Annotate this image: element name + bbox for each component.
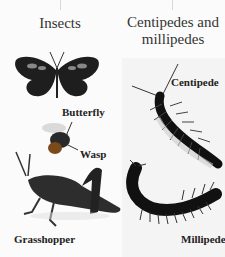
butterfly-icon: [12, 48, 102, 103]
label-millipede: Millipede: [181, 233, 225, 245]
label-centipede: Centipede: [171, 76, 219, 88]
heading-myriapods-line1: Centipedes and: [122, 14, 224, 31]
connector-insects: [60, 0, 61, 10]
label-butterfly: Butterfly: [62, 106, 105, 118]
heading-insects: Insects: [20, 15, 100, 32]
connector-myriapods: [172, 0, 173, 10]
heading-myriapods-line2: millipedes: [122, 31, 224, 48]
label-grasshopper: Grasshopper: [14, 233, 75, 245]
millipede-icon: [122, 160, 225, 230]
heading-myriapods: Centipedes and millipedes: [122, 14, 224, 48]
grasshopper-icon: [10, 150, 125, 230]
